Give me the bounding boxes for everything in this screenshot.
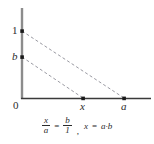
fraction-denominator-a: a (42, 125, 51, 135)
fraction-numerator-x: x (42, 116, 50, 125)
dashed-line-b-to-x (22, 57, 83, 98)
y-axis-label-one: 1 (12, 25, 18, 36)
y-axis-label-b: b (12, 51, 18, 62)
point-marker-one (20, 29, 24, 33)
fraction-denominator-one: 1 (63, 125, 72, 135)
origin-label-zero: 0 (13, 100, 19, 111)
equals-sign-first: = (54, 121, 59, 131)
geometry-figure: 1 b 0 x a x a = b 1 , x = a·b (0, 0, 154, 144)
x-axis-label-a: a (121, 101, 127, 112)
equation-separator-comma: , (76, 126, 80, 136)
fraction-numerator-b: b (63, 116, 72, 125)
point-marker-b (20, 55, 24, 59)
dashed-line-one-to-a (22, 31, 124, 98)
equals-sign-second: = (92, 121, 97, 131)
result-expression-a-times-b: a·b (101, 121, 112, 131)
x-axis-label-x: x (80, 101, 85, 112)
fraction-b-over-one: b 1 (63, 116, 72, 136)
result-variable-x: x (84, 121, 88, 131)
fraction-x-over-a: x a (42, 116, 51, 136)
equation-caption: x a = b 1 , x = a·b (0, 116, 154, 136)
